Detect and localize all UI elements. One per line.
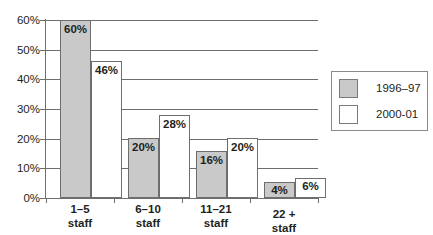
x-axis-label-11-21-staff: 11–21 staff (182, 203, 250, 230)
plot-area: 60% 46% 20% 28% 16% 20% 4% 6% (46, 20, 318, 198)
legend-item-1996-97[interactable]: 1996–97 (339, 78, 421, 98)
bar-value-label: 6% (296, 180, 325, 192)
bar-value-label: 46% (92, 64, 121, 76)
x-axis-label-line2: staff (46, 217, 114, 231)
bar-1996-97-6-10-staff[interactable]: 20% (128, 138, 159, 198)
y-tick-label: 10% (2, 162, 40, 174)
y-tick-mark-10 (40, 168, 46, 169)
legend-label: 2000-01 (376, 108, 418, 120)
y-tick-label: 50% (2, 44, 40, 56)
bar-value-label: 60% (61, 23, 90, 35)
y-tick-mark-30 (40, 109, 46, 110)
x-axis-label-line2: staff (250, 222, 318, 235)
legend-label: 1996–97 (376, 82, 421, 94)
bar-2000-01-22-plus-staff[interactable]: 6% (295, 178, 326, 198)
bar-value-label: 4% (265, 184, 294, 196)
bar-value-label: 20% (228, 141, 257, 153)
x-axis-label-line1: 11–21 (182, 203, 250, 217)
y-tick-mark-50 (40, 50, 46, 51)
y-tick-label: 60% (2, 14, 40, 26)
legend-swatch-icon (339, 79, 358, 98)
bar-1996-97-22-plus-staff[interactable]: 4% (264, 182, 295, 198)
bar-2000-01-6-10-staff[interactable]: 28% (159, 115, 190, 198)
x-axis-label-6-10-staff: 6–10 staff (114, 203, 182, 230)
bar-1996-97-1-5-staff[interactable]: 60% (60, 20, 91, 198)
bar-value-label: 16% (197, 154, 226, 166)
bar-1996-97-11-21-staff[interactable]: 16% (196, 151, 227, 198)
legend: 1996–97 2000-01 (331, 71, 428, 131)
x-axis-label-line1: 1–5 (46, 203, 114, 217)
y-tick-label: 40% (2, 73, 40, 85)
y-tick-mark-40 (40, 79, 46, 80)
legend-item-2000-01[interactable]: 2000-01 (339, 104, 418, 124)
bar-2000-01-11-21-staff[interactable]: 20% (227, 138, 258, 198)
bar-2000-01-1-5-staff[interactable]: 46% (91, 61, 122, 198)
bar-value-label: 20% (129, 141, 158, 153)
y-tick-label: 0% (2, 192, 40, 204)
x-axis-label-line2: staff (182, 217, 250, 231)
y-tick-mark-60 (40, 20, 46, 21)
legend-swatch-icon (339, 105, 358, 124)
x-axis-label-1-5-staff: 1–5 staff (46, 203, 114, 230)
bar-value-label: 28% (160, 118, 189, 130)
chart-screenshot: 60% 46% 20% 28% 16% 20% 4% 6% 60% (0, 0, 433, 235)
x-group-separator (250, 198, 251, 203)
x-axis-label-line1: 22 + (250, 208, 318, 222)
x-axis-label-line1: 6–10 (114, 203, 182, 217)
x-axis-label-line2: staff (114, 217, 182, 231)
y-tick-mark-20 (40, 139, 46, 140)
y-tick-label: 30% (2, 103, 40, 115)
x-group-separator (318, 198, 319, 203)
y-tick-label: 20% (2, 133, 40, 145)
x-axis-label-22-plus-staff: 22 + staff (250, 208, 318, 235)
